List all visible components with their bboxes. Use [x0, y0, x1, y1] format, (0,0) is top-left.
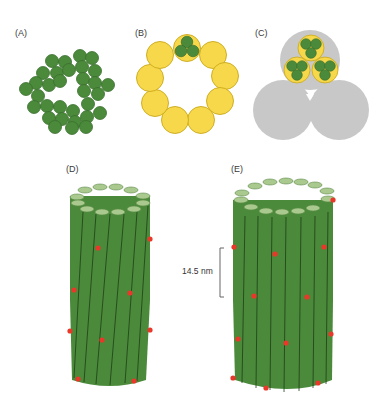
panel-d-cable	[67, 184, 152, 386]
scale-bar-bracket	[220, 248, 224, 297]
diagram-canvas	[0, 0, 391, 412]
panel-a-protofilament-ring	[20, 50, 115, 135]
panel-e-cable	[230, 178, 335, 392]
